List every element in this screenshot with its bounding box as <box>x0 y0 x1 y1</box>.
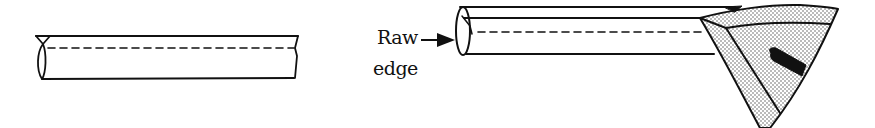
left-tube-right-end <box>295 36 298 78</box>
right-tube-raw-edge-ellipse <box>456 7 470 55</box>
raw-edge-label-line2: edge <box>373 59 418 78</box>
left-fabric-tube <box>36 36 298 79</box>
left-tube-bottom-edge <box>42 78 294 79</box>
arrowhead-icon <box>437 33 455 47</box>
raw-edge-arrow <box>421 33 455 47</box>
left-tube-end-fold <box>36 36 50 44</box>
right-fabric-tube <box>456 7 735 55</box>
left-tube-end-ellipse <box>38 44 46 79</box>
diagram-canvas <box>0 0 875 128</box>
raw-edge-label-line1: Raw <box>377 28 418 47</box>
iron <box>700 5 838 128</box>
